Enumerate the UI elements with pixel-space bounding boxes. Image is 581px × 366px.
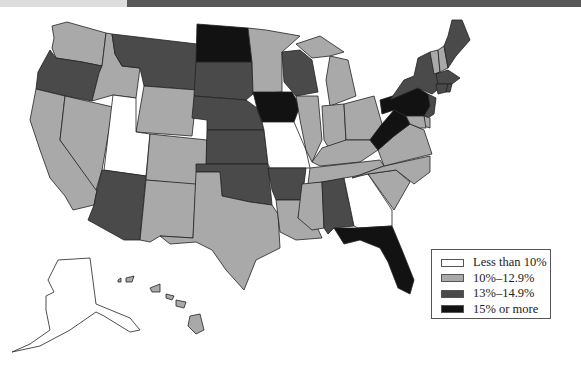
state-AK[interactable] xyxy=(12,258,140,352)
state-NM[interactable] xyxy=(140,180,196,242)
state-HI-small[interactable] xyxy=(118,278,121,282)
state-WY[interactable] xyxy=(136,86,197,136)
legend-item-13-to-14-9: 13%–14.9% xyxy=(441,286,550,302)
state-NE[interactable] xyxy=(192,96,264,130)
legend-label: 13%–14.9% xyxy=(473,286,534,301)
legend-swatch xyxy=(441,274,464,282)
state-IA[interactable] xyxy=(253,92,300,122)
legend-label: 15% or more xyxy=(473,302,538,317)
legend-swatch xyxy=(441,305,464,313)
legend-item-15-or-more: 15% or more xyxy=(441,302,550,318)
legend-swatch xyxy=(441,290,464,298)
legend-item-less-than-10: Less than 10% xyxy=(441,255,550,271)
state-KS[interactable] xyxy=(206,130,268,164)
state-ME[interactable] xyxy=(444,20,470,68)
state-MI[interactable] xyxy=(326,56,356,106)
legend-label: Less than 10% xyxy=(473,255,547,270)
legend-swatch xyxy=(441,259,464,267)
state-HI-kauai[interactable] xyxy=(150,284,160,292)
legend-label: 10%–12.9% xyxy=(473,271,534,286)
state-ND[interactable] xyxy=(196,24,252,62)
state-CT[interactable] xyxy=(436,84,448,94)
map-legend: Less than 10% 10%–12.9% 13%–14.9% 15% or… xyxy=(431,249,551,319)
state-SD[interactable] xyxy=(194,62,253,100)
state-HI-niihau[interactable] xyxy=(126,276,134,282)
state-FL[interactable] xyxy=(334,226,414,294)
state-HI-oahu[interactable] xyxy=(166,294,174,300)
legend-item-10-to-12-9: 10%–12.9% xyxy=(441,271,550,287)
state-HI-maui[interactable] xyxy=(176,300,186,308)
state-HI-big[interactable] xyxy=(188,314,204,334)
